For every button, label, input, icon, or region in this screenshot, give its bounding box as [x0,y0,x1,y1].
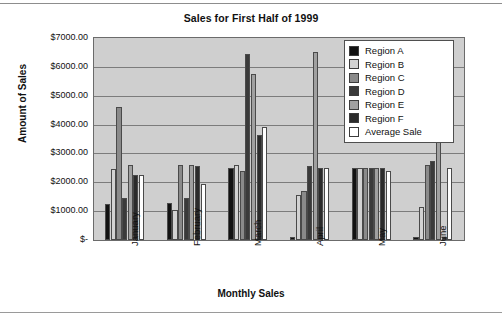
x-axis-tick-label: January [129,182,140,246]
bar [413,237,418,240]
bar [234,165,239,240]
y-axis-tick-label: $6000.00 [8,61,88,71]
bar [122,198,127,240]
bar [425,165,430,240]
legend-label: Region E [365,99,404,110]
legend-item[interactable]: Region E [349,98,449,112]
chart-legend: Region ARegion BRegion CRegion DRegion E… [344,40,454,143]
legend-swatch-icon [349,100,359,110]
bar [111,169,116,240]
y-axis-tick-label: $3000.00 [8,147,88,157]
y-axis-tick-label: $- [8,234,88,244]
bar [369,168,374,240]
legend-label: Average Sale [365,126,422,137]
bar [290,237,295,240]
bar [240,171,245,240]
x-axis-tick-label: April [314,182,325,246]
x-axis-title: Monthly Sales [0,288,502,299]
legend-item[interactable]: Region C [349,71,449,85]
bar [105,204,110,240]
legend-label: Region B [365,59,404,70]
x-axis-tick-label: February [191,182,202,246]
y-axis-tick-label: $7000.00 [8,32,88,42]
legend-item[interactable]: Region A [349,44,449,58]
bar [262,127,267,240]
sales-bar-chart: Sales for First Half of 1999 Amount of S… [0,0,502,316]
legend-swatch-icon [349,59,359,69]
legend-label: Region C [365,72,405,83]
x-axis-tick-label: May [376,182,387,246]
chart-title: Sales for First Half of 1999 [0,12,502,24]
bar [116,107,121,240]
y-axis-tick-label: $4000.00 [8,119,88,129]
legend-item[interactable]: Average Sale [349,125,449,139]
y-axis-tick-label: $5000.00 [8,90,88,100]
y-axis-tick-label: $1000.00 [8,205,88,215]
bar [184,198,189,240]
bar [307,166,312,240]
legend-swatch-icon [349,73,359,83]
bar [172,210,177,240]
legend-swatch-icon [349,127,359,137]
x-axis-tick-label: June [437,182,448,246]
y-axis-tick-label: $2000.00 [8,176,88,186]
bar [296,195,301,240]
legend-item[interactable]: Region F [349,112,449,126]
legend-label: Region F [365,113,404,124]
legend-label: Region D [365,86,405,97]
bar [245,54,250,240]
legend-label: Region A [365,45,404,56]
bar [167,203,172,241]
bar [357,168,362,240]
legend-swatch-icon [349,46,359,56]
bar [352,168,357,240]
legend-swatch-icon [349,86,359,96]
bar [430,161,435,240]
bar [178,165,183,240]
bar [228,168,233,240]
bar [363,168,368,240]
legend-swatch-icon [349,113,359,123]
legend-item[interactable]: Region D [349,85,449,99]
bar [419,207,424,240]
legend-item[interactable]: Region B [349,58,449,72]
bar [447,168,452,240]
x-axis-tick-label: March [252,182,263,246]
bar [301,191,306,240]
